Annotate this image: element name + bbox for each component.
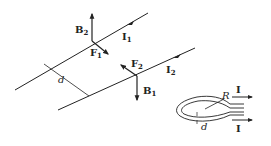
label-loop-current-bottom: I: [236, 123, 241, 134]
label-b1: B1: [143, 85, 156, 98]
label-b2: B2: [75, 24, 88, 37]
label-loop-current-top: I: [236, 84, 241, 95]
current-loop: [177, 96, 244, 121]
label-i2: I2: [166, 64, 176, 77]
label-loop-radius: R: [221, 90, 230, 101]
separation-indicator: [44, 64, 89, 96]
diagram-canvas: B2 I1 F1 F2 I2 B1 d I I R d: [0, 0, 271, 146]
label-f1: F1: [90, 47, 102, 60]
label-f2: F2: [131, 58, 143, 71]
label-separation-d: d: [58, 74, 64, 85]
wire-2: [58, 48, 195, 110]
current-direction-arrow-icon: [173, 54, 181, 58]
label-i1: I1: [122, 31, 132, 44]
label-loop-gap-d: d: [201, 121, 207, 132]
